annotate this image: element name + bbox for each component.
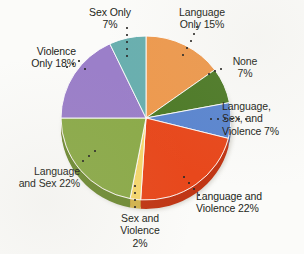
pie-top-group: Language Only 15%None 7%Language, Sex, a… bbox=[61, 36, 231, 200]
slice-label-language-and-sex: Language and Sex 22% bbox=[2, 165, 80, 190]
pie-chart-graphic: Language Only 15%None 7%Language, Sex, a… bbox=[61, 34, 231, 210]
slice-label-violence-only: Violence Only 18% bbox=[2, 45, 76, 70]
slice-label-sex-only: Sex Only 7% bbox=[74, 6, 146, 31]
slice-label-language-and-violence: Language and Violence 22% bbox=[196, 190, 302, 215]
pie-chart-screenshot: Language Only 15%None 7%Language, Sex, a… bbox=[0, 0, 304, 254]
slice-label-language-only: Language Only 15% bbox=[160, 6, 244, 31]
slice-label-language-sex-violence: Language, Sex, and Violence 7% bbox=[222, 100, 304, 137]
slice-label-sex-and-violence: Sex and Violence 2% bbox=[104, 212, 176, 249]
pie-slices-svg: Language Only 15%None 7%Language, Sex, a… bbox=[61, 34, 231, 210]
slice-label-none: None 7% bbox=[214, 55, 276, 80]
